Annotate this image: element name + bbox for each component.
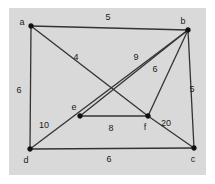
edge-weight-fc: 20 bbox=[161, 118, 171, 128]
node-label-b: b bbox=[180, 16, 185, 26]
graph-edge-ad bbox=[30, 26, 31, 149]
graph-node-c bbox=[192, 146, 197, 151]
edge-weight-be: 9 bbox=[133, 52, 138, 62]
graph-node-b bbox=[186, 28, 191, 33]
graph-node-d bbox=[28, 147, 33, 152]
node-label-f: f bbox=[144, 122, 147, 132]
edge-weight-dc: 6 bbox=[106, 154, 111, 164]
graph-canvas: abcdef 564965108206 bbox=[0, 0, 215, 184]
edge-weight-ab: 5 bbox=[105, 12, 110, 22]
node-label-d: d bbox=[23, 155, 28, 165]
node-label-c: c bbox=[191, 154, 196, 164]
edge-weight-ef: 8 bbox=[108, 123, 113, 133]
edge-weight-bc: 5 bbox=[189, 84, 194, 94]
graph-edge-dc bbox=[30, 148, 194, 149]
node-label-e: e bbox=[71, 102, 76, 112]
edge-weight-bf: 6 bbox=[152, 64, 157, 74]
graph-edge-ab bbox=[31, 26, 188, 30]
graph-node-e bbox=[78, 114, 83, 119]
graph-edge-af bbox=[31, 26, 148, 116]
edge-weight-af: 4 bbox=[73, 52, 78, 62]
graph-node-f bbox=[146, 114, 151, 119]
graph-diagram-screenshot: abcdef 564965108206 bbox=[0, 0, 215, 184]
edge-weight-ad: 6 bbox=[16, 85, 21, 95]
graph-node-a bbox=[29, 24, 34, 29]
edge-weight-db: 10 bbox=[39, 120, 49, 130]
node-label-a: a bbox=[19, 17, 24, 27]
